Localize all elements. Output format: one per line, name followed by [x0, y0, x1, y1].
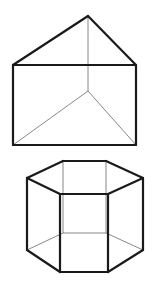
visible-edge — [88, 16, 136, 65]
hidden-edge — [106, 233, 143, 250]
visible-edge — [108, 250, 143, 272]
visible-edge — [13, 16, 88, 65]
visible-edge — [27, 178, 60, 194]
visible-edge — [108, 178, 143, 194]
hidden-edge — [88, 91, 136, 145]
triangular-prism — [13, 16, 136, 145]
hexagonal-prism — [27, 161, 143, 272]
visible-edge — [27, 250, 60, 272]
figure-canvas — [0, 0, 159, 287]
visible-edge — [27, 161, 63, 178]
visible-edge — [106, 161, 143, 178]
hidden-edge — [13, 91, 88, 145]
hidden-edge — [27, 233, 63, 250]
